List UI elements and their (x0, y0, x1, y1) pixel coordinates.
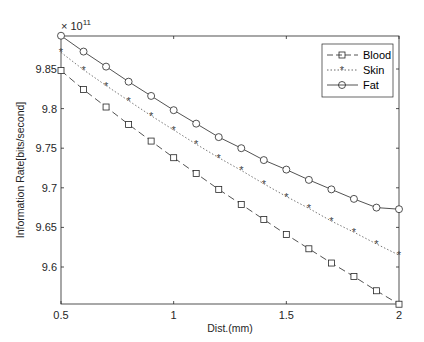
asterisk-marker-icon: * (239, 164, 244, 176)
y-tick-label: 9.6 (42, 261, 57, 273)
asterisk-marker-icon: * (172, 124, 177, 136)
legend: Blood * Skin Fat (322, 44, 393, 97)
x-tick-label: 1.5 (279, 309, 294, 321)
circle-marker-icon (373, 204, 380, 211)
asterisk-marker-icon: * (352, 226, 357, 238)
circle-marker-icon (80, 48, 87, 55)
square-marker-icon (216, 186, 222, 192)
circle-marker-icon (328, 186, 335, 193)
asterisk-marker-icon: * (194, 138, 199, 150)
square-marker-icon (238, 201, 244, 207)
square-marker-icon (193, 171, 199, 177)
y-exponent-label: × 1011 (61, 18, 92, 32)
asterisk-marker-icon: * (59, 46, 64, 58)
circle-marker-icon (170, 107, 177, 114)
square-marker-icon (306, 246, 312, 252)
circle-marker-icon (396, 206, 403, 213)
asterisk-marker-icon: * (104, 80, 109, 92)
asterisk-marker-icon: * (126, 95, 131, 107)
circle-marker-icon (58, 32, 65, 39)
x-tick-label: 2 (396, 309, 402, 321)
circle-marker-icon (305, 176, 312, 183)
asterisk-marker-icon: * (340, 64, 345, 76)
asterisk-marker-icon: * (284, 191, 289, 203)
square-marker-icon (171, 155, 177, 161)
square-marker-icon (81, 87, 87, 93)
circle-marker-icon (260, 157, 267, 164)
square-marker-icon (396, 301, 402, 307)
circle-marker-icon (193, 120, 200, 127)
square-marker-icon (103, 104, 109, 110)
circle-marker-icon (125, 78, 132, 85)
square-marker-icon (261, 216, 267, 222)
y-tick-label: 9.8 (42, 103, 57, 115)
square-marker-icon (351, 274, 357, 280)
asterisk-marker-icon: * (329, 215, 334, 227)
circle-marker-icon (103, 63, 110, 70)
y-axis-label: Information Rate[bits/second] (14, 102, 26, 239)
circle-marker-icon (238, 145, 245, 152)
circle-marker-icon (215, 134, 222, 141)
legend-label-skin: Skin (363, 64, 384, 76)
y-tick-label: 9.75 (36, 142, 57, 154)
square-marker-icon (373, 288, 379, 294)
circle-marker-icon (283, 166, 290, 173)
square-marker-icon (58, 68, 64, 74)
legend-label-fat: Fat (363, 79, 379, 91)
y-tick-label: 9.65 (36, 221, 57, 233)
y-tick-label: 9.7 (42, 182, 57, 194)
square-marker-icon (328, 260, 334, 266)
x-tick-label: 1 (171, 309, 177, 321)
asterisk-marker-icon: * (262, 178, 267, 190)
x-tick-label: 0.5 (53, 309, 68, 321)
x-axis-label: Dist.(mm) (207, 322, 253, 334)
square-marker-icon (148, 138, 154, 144)
asterisk-marker-icon: * (81, 64, 86, 76)
asterisk-marker-icon: * (217, 152, 222, 164)
asterisk-marker-icon: * (397, 249, 402, 261)
circle-marker-icon (148, 92, 155, 99)
asterisk-marker-icon: * (149, 110, 154, 122)
asterisk-marker-icon: * (307, 202, 312, 214)
square-marker-icon (126, 121, 132, 127)
asterisk-marker-icon: * (374, 238, 379, 250)
legend-label-blood: Blood (363, 49, 391, 61)
circle-marker-icon (350, 195, 357, 202)
line-chart: 0.511.529.69.659.79.759.89.85 **********… (0, 0, 424, 342)
y-tick-label: 9.85 (36, 63, 57, 75)
square-marker-icon (283, 232, 289, 238)
